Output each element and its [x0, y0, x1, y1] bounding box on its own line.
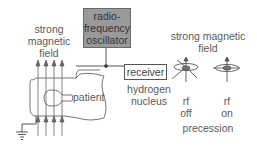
precession-rf-off — [172, 57, 198, 82]
receiver-box: receiver — [124, 64, 167, 80]
rf-off-line-1: rf — [178, 95, 194, 107]
hydrogen-nucleus-label: hydrogen nucleus — [127, 83, 171, 107]
patient-label: patient — [73, 91, 105, 103]
right-field-line-2: field — [168, 42, 248, 54]
nucleus-line-2: nucleus — [127, 95, 171, 107]
right-field-line-1: strong magnetic — [168, 30, 248, 42]
rf-off-line-2: off — [178, 107, 194, 119]
left-field-line-1: strong — [25, 23, 73, 35]
magnetic-field-arrows — [36, 60, 64, 136]
oscillator-line-3: oscillator — [86, 34, 127, 46]
rf-oscillator-box: radio- frequency oscillator — [83, 8, 131, 48]
nucleus-line-1: hydrogen — [127, 83, 171, 95]
oscillator-line-1: radio- — [94, 10, 121, 22]
rf-on-line-1: rf — [219, 95, 235, 107]
left-field-label: strong magnetic field — [25, 23, 73, 59]
wires — [16, 46, 124, 140]
rf-on-label: rf on — [219, 95, 235, 119]
rf-off-label: rf off — [178, 95, 194, 119]
precession-label: precession — [180, 122, 236, 134]
oscillator-line-2: frequency — [84, 22, 130, 34]
left-field-line-2: magnetic — [25, 35, 73, 47]
precession-rf-on — [213, 57, 240, 82]
rf-on-line-2: on — [219, 107, 235, 119]
left-field-line-3: field — [25, 47, 73, 59]
right-field-label: strong magnetic field — [168, 30, 248, 54]
